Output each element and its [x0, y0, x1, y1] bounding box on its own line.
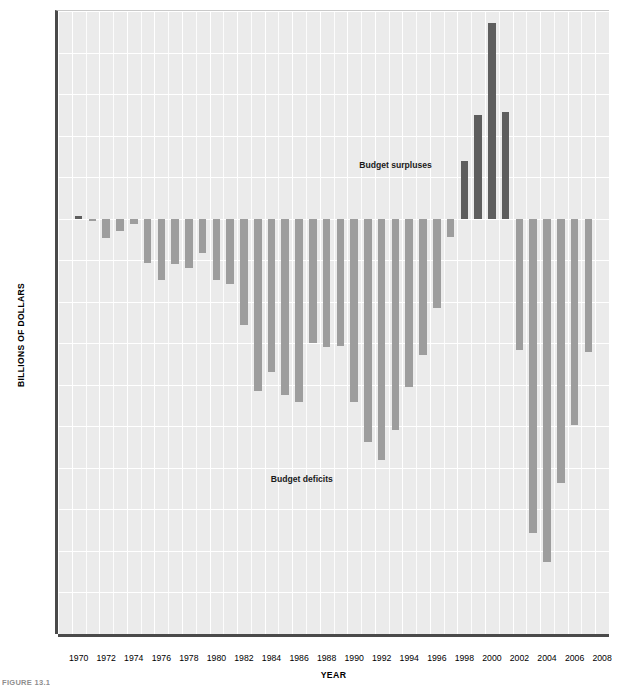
bar-1974 [130, 219, 138, 224]
gridline-vertical [99, 11, 100, 634]
bar-2005 [557, 219, 565, 483]
bar-1998 [461, 161, 469, 218]
x-tick-2000: 2000 [482, 653, 501, 663]
x-tick-1970: 1970 [69, 653, 88, 663]
bar-1982 [240, 219, 248, 325]
x-tick-1986: 1986 [289, 653, 308, 663]
gridline-vertical [554, 11, 555, 634]
gridline-vertical [402, 11, 403, 634]
x-tick-2004: 2004 [537, 653, 556, 663]
bar-1995 [419, 219, 427, 355]
y-axis-title: BILLIONS OF DOLLARS [16, 255, 26, 415]
x-tick-1976: 1976 [152, 653, 171, 663]
gridline-vertical [223, 11, 224, 634]
plot-inner: Budget surplusesBudget deficits [58, 11, 609, 634]
gridline-vertical [278, 11, 279, 634]
gridline-vertical [86, 11, 87, 634]
bar-1985 [281, 219, 289, 395]
bar-1997 [447, 219, 455, 237]
annotation-budget-surpluses: Budget surpluses [359, 160, 432, 170]
x-tick-1972: 1972 [97, 653, 116, 663]
bar-1973 [116, 219, 124, 231]
gridline-vertical [210, 11, 211, 634]
bar-2003 [529, 219, 537, 533]
bar-1987 [309, 219, 317, 344]
gridline-vertical [361, 11, 362, 634]
bar-1975 [144, 219, 152, 263]
gridline-vertical [292, 11, 293, 634]
bar-2000 [488, 23, 496, 219]
gridline-vertical [196, 11, 197, 634]
gridline-vertical [444, 11, 445, 634]
gridline-vertical [127, 11, 128, 634]
bar-1988 [323, 219, 331, 348]
x-tick-1982: 1982 [234, 653, 253, 663]
bar-1992 [378, 219, 386, 460]
bar-2006 [571, 219, 579, 425]
bar-1991 [364, 219, 372, 442]
x-tick-2008: 2008 [592, 653, 611, 663]
gridline-vertical [485, 11, 486, 634]
x-axis-title: YEAR [58, 670, 609, 680]
bar-2007 [585, 219, 593, 353]
bar-1986 [295, 219, 303, 403]
gridline-vertical [182, 11, 183, 634]
x-tick-1988: 1988 [317, 653, 336, 663]
gridline-vertical [72, 11, 73, 634]
gridline-vertical [251, 11, 252, 634]
gridline-vertical [499, 11, 500, 634]
bar-1999 [474, 115, 482, 219]
bar-1990 [350, 219, 358, 403]
x-tick-2006: 2006 [565, 653, 584, 663]
x-tick-1990: 1990 [344, 653, 363, 663]
gridline-vertical [375, 11, 376, 634]
gridline-vertical [306, 11, 307, 634]
gridline-vertical [113, 11, 114, 634]
gridline-vertical [471, 11, 472, 634]
bar-1983 [254, 219, 262, 392]
gridline-vertical [58, 11, 59, 634]
bar-1994 [405, 219, 413, 388]
x-tick-1974: 1974 [124, 653, 143, 663]
gridline-vertical [265, 11, 266, 634]
gridline-vertical [457, 11, 458, 634]
gridline-vertical [168, 11, 169, 634]
gridline-vertical [540, 11, 541, 634]
bar-1978 [185, 219, 193, 268]
bar-1976 [158, 219, 166, 280]
x-tick-2002: 2002 [510, 653, 529, 663]
gridline-vertical [154, 11, 155, 634]
bar-1972 [102, 219, 110, 238]
gridline-vertical [513, 11, 514, 634]
gridline-vertical [430, 11, 431, 634]
figure-caption: FIGURE 13.1 [2, 678, 50, 686]
bar-2004 [543, 219, 551, 562]
x-tick-1992: 1992 [372, 653, 391, 663]
gridline-vertical [581, 11, 582, 634]
x-tick-1980: 1980 [207, 653, 226, 663]
gridline-vertical [568, 11, 569, 634]
gridline-vertical [595, 11, 596, 634]
x-tick-1984: 1984 [262, 653, 281, 663]
annotation-budget-deficits: Budget deficits [271, 474, 333, 484]
bar-1970 [75, 216, 83, 218]
bar-1979 [199, 219, 207, 253]
bar-1993 [392, 219, 400, 431]
bar-1977 [171, 219, 179, 264]
x-tick-1996: 1996 [427, 653, 446, 663]
plot-area: Budget surplusesBudget deficits $2502001… [55, 10, 609, 634]
x-tick-1978: 1978 [179, 653, 198, 663]
gridline-vertical [526, 11, 527, 634]
gridline-vertical [389, 11, 390, 634]
gridline-vertical [347, 11, 348, 634]
gridline-vertical [320, 11, 321, 634]
gridline-vertical [237, 11, 238, 634]
bar-1971 [89, 219, 97, 221]
x-tick-1994: 1994 [400, 653, 419, 663]
gridline-vertical [416, 11, 417, 634]
bar-1989 [337, 219, 345, 346]
gridline-vertical [334, 11, 335, 634]
bar-1996 [433, 219, 441, 309]
gridline-vertical [141, 11, 142, 634]
